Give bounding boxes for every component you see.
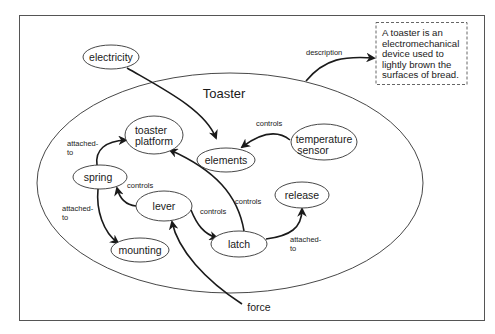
edge-label-latch-platform: controls — [235, 197, 262, 206]
node-spring-label: spring — [84, 171, 113, 183]
edge-label-latch-release-2: to — [290, 244, 296, 253]
edge-label-temp-controls: controls — [256, 119, 283, 128]
node-release[interactable]: release — [275, 182, 329, 208]
toaster-title: Toaster — [203, 86, 246, 101]
description-line-2: electromechanical — [382, 38, 459, 49]
node-force-label[interactable]: force — [247, 301, 271, 313]
node-temperature-sensor-label-2: sensor — [297, 144, 329, 156]
edge-label-latch-release-1: attached- — [290, 235, 322, 244]
node-elements[interactable]: elements — [197, 148, 255, 172]
edge-label-spring-mounting-1: attached- — [62, 204, 94, 213]
node-temperature-sensor[interactable]: temperature sensor — [291, 124, 357, 160]
node-electricity[interactable]: electricity — [83, 45, 139, 69]
node-toaster-platform-label-2: platform — [135, 135, 173, 147]
description-line-3: device used to — [382, 48, 444, 59]
node-lever[interactable]: lever — [136, 191, 192, 221]
edge-label-spring-mounting-2: to — [62, 213, 68, 222]
node-lever-label: lever — [153, 200, 176, 212]
edge-label-spring-platform-2: to — [67, 148, 73, 157]
node-latch-label: latch — [228, 238, 250, 250]
node-spring[interactable]: spring — [73, 165, 127, 189]
edge-label-description: description — [306, 48, 342, 57]
node-mounting[interactable]: mounting — [111, 238, 169, 262]
description-line-5: surfaces of bread. — [382, 69, 459, 80]
edge-label-lever-spring: controls — [127, 181, 154, 190]
edge-label-spring-platform-1: attached- — [67, 139, 99, 148]
description-line-4: lightly brown the — [382, 59, 451, 70]
node-latch[interactable]: latch — [211, 231, 267, 257]
description-box[interactable]: A toaster is an electromechanical device… — [376, 23, 467, 85]
node-electricity-label: electricity — [89, 51, 134, 63]
node-elements-label: elements — [205, 154, 248, 166]
toaster-concept-map: Toaster A toaster is an electromechanica… — [0, 0, 495, 334]
node-toaster-platform[interactable]: toaster platform — [125, 116, 183, 154]
edge-label-lever-latch: controls — [200, 207, 227, 216]
description-line-1: A toaster is an — [382, 27, 443, 38]
node-release-label: release — [285, 189, 320, 201]
node-mounting-label: mounting — [118, 244, 161, 256]
